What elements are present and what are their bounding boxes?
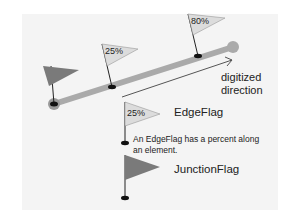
element-line [48, 41, 239, 110]
description-line1: An EdgeFlag has a percent along [133, 134, 259, 145]
edge-flag-25-label: 25% [105, 46, 123, 56]
edge-flag-80-label: 80% [191, 16, 209, 26]
direction-label: digitized direction [221, 71, 263, 97]
description-line2: an element. [133, 145, 259, 156]
legend-edge-flag-percent: 25% [127, 108, 145, 118]
flag-diagram [0, 0, 302, 220]
legend-junction-flag-name: JunctionFlag [174, 163, 239, 175]
legend-junction-flag-icon [121, 155, 160, 200]
legend-edge-flag-name: EdgeFlag [174, 106, 223, 118]
direction-label-line2: direction [221, 84, 263, 97]
direction-label-line1: digitized [221, 71, 263, 84]
legend-edge-flag-description: An EdgeFlag has a percent along an eleme… [133, 134, 259, 155]
